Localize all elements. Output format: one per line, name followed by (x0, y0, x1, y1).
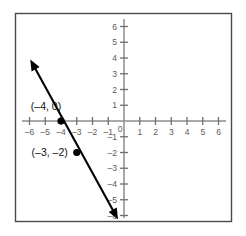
data-point (73, 149, 80, 156)
x-tick-label: –6 (25, 127, 35, 137)
x-tick-label: 4 (185, 127, 190, 137)
x-tick-label: 2 (153, 127, 158, 137)
x-tick-label: 6 (216, 127, 221, 137)
point-coordinate-label: (–4, 0) (31, 100, 61, 112)
y-tick-label: 6 (112, 22, 117, 32)
x-tick-label: 5 (200, 127, 205, 137)
point-coordinate-label: (–3, –2) (32, 146, 68, 158)
x-tick-label: –2 (88, 127, 98, 137)
x-tick-label: 3 (169, 127, 174, 137)
figure-background (0, 0, 246, 236)
x-tick-label: –3 (72, 127, 82, 137)
y-tick-label: –1 (108, 132, 118, 142)
y-tick-label: 4 (112, 53, 117, 63)
y-tick-label: 5 (112, 37, 117, 47)
y-tick-label: –2 (108, 148, 118, 158)
y-tick-label: –4 (108, 179, 118, 189)
x-tick-label: 1 (137, 127, 142, 137)
y-tick-label: –3 (108, 163, 118, 173)
origin-tick-label: 0 (118, 124, 123, 134)
x-tick-label: –5 (41, 127, 51, 137)
y-tick-label: 1 (112, 100, 117, 110)
y-tick-label: 3 (112, 69, 117, 79)
data-point (57, 117, 64, 124)
x-tick-label: –4 (56, 127, 66, 137)
coordinate-plane-figure: –6–5–4–3–2–1123456 –6–5–4–3–2–1123456 0 … (0, 0, 246, 236)
y-tick-label: 2 (112, 85, 117, 95)
